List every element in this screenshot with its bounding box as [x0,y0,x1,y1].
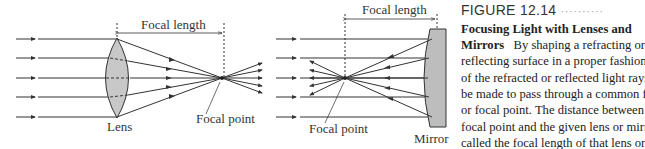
mirror-diagram [276,14,446,127]
lens-diagram [16,23,262,118]
caption-line: Focusing Light with Lenses and [461,21,645,37]
optics-figure: Focal length Lens Focal point Focal leng… [0,0,455,149]
caption-title: Focusing Light with Lenses and [461,22,632,36]
caption-body: Focusing Light with Lenses and Mirrors B… [461,21,645,149]
caption-title: Mirrors [461,38,504,52]
left-focal-point-label: Focal point [196,111,255,127]
figure-number: FIGURE 12.14 ·········· [461,3,645,19]
left-focal-length-label: Focal length [141,17,206,33]
caption-line: reflecting surface in a proper fashion [461,53,645,69]
caption-line: focal point and the given lens or mirr [461,119,645,135]
caption-line: of the refracted or reflected light rays [461,70,645,86]
right-focal-point-label: Focal point [309,121,368,137]
caption-line: or focal point. The distance between [461,102,645,118]
caption-line: called the focal length of that lens or [461,135,645,149]
figure-number-text: FIGURE 12.14 [461,3,556,18]
caption-line: Mirrors By shaping a refracting or [461,37,645,53]
figure-caption: FIGURE 12.14 ·········· Focusing Light w… [461,3,645,149]
mirror-label: Mirror [414,131,449,147]
caption-line: be made to pass through a common f [461,86,645,102]
dotted-leader: ·········· [561,6,604,17]
right-focal-length-label: Focal length [362,2,427,18]
lens-label: Lens [107,119,132,135]
caption-text-run: By shaping a refracting or [504,38,645,52]
